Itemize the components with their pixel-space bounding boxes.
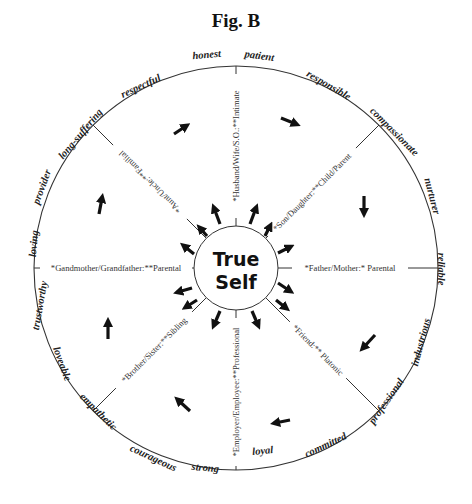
arrow-icon	[174, 126, 186, 134]
arrow-icon	[278, 283, 290, 291]
trait-honest: honest	[192, 48, 223, 62]
trait-reliable: reliable	[436, 253, 447, 286]
center-label-self: Self	[215, 271, 257, 293]
trait-industrious: industrious	[409, 317, 432, 367]
arrow-icon	[275, 420, 290, 423]
trait-patient: patient	[243, 48, 276, 63]
arrow-icon	[178, 288, 192, 292]
trait-loyal: loyal	[252, 444, 274, 457]
arrow-icon	[186, 300, 197, 307]
spoke-label-intimate: *Husband/Wife/S.O.:**Intimate	[231, 90, 241, 202]
spoke-label-child-parent: *Son/Daughter:**Child/Parent	[271, 150, 354, 233]
arrow-icon	[250, 208, 256, 224]
trait-professional: professional	[366, 376, 406, 427]
arrow-icon	[99, 198, 102, 214]
arrow-icon	[276, 300, 286, 308]
trait-loving: loving	[27, 230, 40, 258]
trait-compassionate: compassionate	[368, 105, 421, 158]
trait-strong: strong	[190, 461, 219, 474]
spoke-label-familial: *Aunt/Uncle:**Familial	[116, 148, 183, 215]
spoke-label-professional: *Employer/Employee:**Professional	[231, 327, 241, 456]
spoke-label-sibling: *Brother/Sister:**Sibling	[119, 315, 189, 385]
spoke-label-platonic: *Friend:** Platonic	[290, 322, 345, 377]
arrow-icon	[281, 118, 296, 124]
spoke-label-parental: *Father/Mother:* Parental	[305, 263, 397, 273]
arrow-icon	[363, 335, 375, 348]
arrow-icon	[178, 400, 190, 411]
trait-provider: provider	[30, 167, 53, 207]
arrow-icon	[278, 247, 290, 253]
arrow-icon	[214, 208, 220, 224]
arrow-icon	[184, 246, 194, 254]
trait-loveable: loveable	[51, 345, 74, 383]
arrow-icon	[214, 311, 220, 325]
center-label-true: True	[213, 248, 260, 270]
trait-trustworthy: trustworthy	[30, 280, 50, 331]
trait-long-suffering: long-suffering	[56, 106, 104, 161]
trait-committed: committed	[303, 430, 349, 459]
trait-courageous: courageous	[128, 442, 178, 473]
trait-empathetic: empathetic	[78, 391, 119, 432]
spoke-label-grandparental: *Gandmother/Grandfather:**Parental	[51, 263, 182, 273]
trait-respectful: respectful	[119, 72, 162, 100]
trait-responsible: responsible	[305, 68, 353, 102]
arrow-icon	[252, 311, 258, 325]
true-self-wheel-diagram: *Husband/Wife/S.O.:**Intimate *Son/Daugh…	[0, 0, 472, 504]
